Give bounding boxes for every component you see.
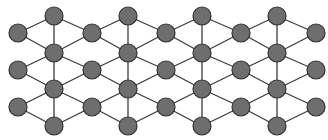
graph-node — [232, 61, 250, 79]
graph-node — [9, 61, 27, 79]
graph-node — [268, 7, 286, 25]
graph-node — [193, 80, 211, 98]
graph-node — [157, 98, 175, 116]
graph-node — [268, 80, 286, 98]
graph-node — [83, 24, 101, 42]
graph-node — [83, 98, 101, 116]
graph-node — [45, 80, 63, 98]
graph-node — [45, 7, 63, 25]
graph-node — [232, 98, 250, 116]
graph-node — [232, 24, 250, 42]
graph-node — [193, 44, 211, 62]
graph-node — [157, 61, 175, 79]
graph-node — [307, 98, 325, 116]
graph-node — [307, 24, 325, 42]
graph-node — [119, 117, 137, 135]
graph-node — [268, 44, 286, 62]
graph-node — [193, 7, 211, 25]
graph-node — [9, 24, 27, 42]
graph-node — [45, 117, 63, 135]
graph-node — [119, 7, 137, 25]
graph-node — [157, 24, 175, 42]
graph-node — [307, 61, 325, 79]
graph-node — [119, 44, 137, 62]
graph-node — [45, 44, 63, 62]
graph-node — [83, 61, 101, 79]
lattice-diagram — [0, 0, 328, 140]
graph-node — [193, 117, 211, 135]
graph-node — [9, 98, 27, 116]
graph-node — [268, 117, 286, 135]
graph-node — [119, 80, 137, 98]
